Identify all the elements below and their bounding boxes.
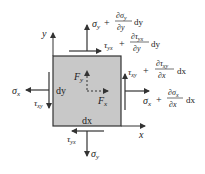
bottom-normal-label: σy [91,148,100,161]
svg-text:+: + [156,94,162,105]
svg-text:+: + [119,38,125,49]
svg-text:∂τxy: ∂τxy [156,59,168,69]
left-shear-label: τxy [34,98,43,109]
svg-text:+: + [104,17,110,28]
y-axis-label: y [41,28,47,39]
top-shear-expression: τyx + ∂τyx ∂y dy [104,32,161,53]
svg-text:dy: dy [134,17,144,27]
svg-text:dx: dx [186,95,196,105]
svg-text:∂x: ∂x [169,100,177,109]
stress-element-diagram: y x Fy Fx dy dx σx τxy τyx σy σy + ∂σy ∂… [0,0,205,174]
svg-text:∂y: ∂y [133,44,141,53]
top-normal-expression: σy + ∂σy ∂y dy [92,11,144,32]
bottom-shear-label: τyx [67,134,76,145]
svg-text:∂τyx: ∂τyx [131,32,143,42]
dx-label: dx [82,115,92,126]
svg-text:∂x: ∂x [158,71,166,80]
right-normal-expression: σx + ∂σx ∂x dx [143,88,196,109]
svg-text:dy: dy [151,39,161,49]
right-shear-expression: τxy + ∂τxy ∂x dx [128,59,187,80]
svg-text:∂y: ∂y [117,23,125,32]
svg-text:σx: σx [143,95,152,108]
svg-text:∂σx: ∂σx [168,88,179,98]
svg-text:τxy: τxy [128,67,137,78]
svg-text:dx: dx [177,66,187,76]
left-normal-label: σx [12,85,21,98]
svg-text:∂σy: ∂σy [116,11,127,21]
svg-text:τyx: τyx [104,40,113,51]
svg-text:+: + [143,65,149,76]
x-axis-label: x [138,129,144,140]
dy-label: dy [56,85,66,96]
svg-text:σy: σy [92,18,101,31]
